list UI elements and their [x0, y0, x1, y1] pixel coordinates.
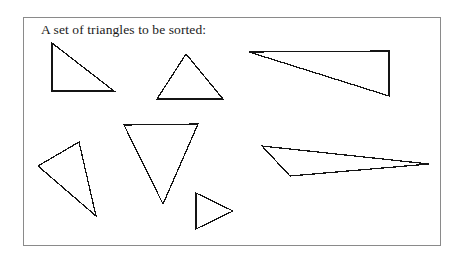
figure-caption: A set of triangles to be sorted: [41, 22, 206, 38]
figure-root: A set of triangles to be sorted: [0, 0, 465, 263]
figure-frame-border [23, 17, 441, 246]
